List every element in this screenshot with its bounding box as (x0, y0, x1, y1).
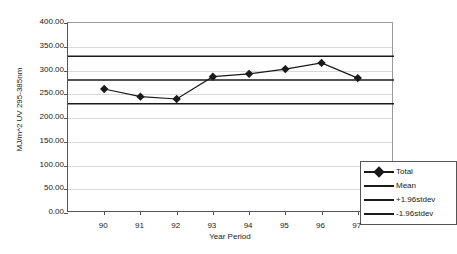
x-axis-title: Year Period (67, 232, 393, 241)
x-tick-label: 93 (200, 222, 224, 230)
x-tick-label: 92 (164, 222, 188, 230)
x-tick-label: 91 (127, 222, 151, 230)
x-tick-label: 97 (345, 222, 369, 230)
x-tick-label: 94 (236, 222, 260, 230)
x-tick-label: 96 (309, 222, 333, 230)
x-tick-label: 90 (91, 222, 115, 230)
x-tick-label: 95 (272, 222, 296, 230)
